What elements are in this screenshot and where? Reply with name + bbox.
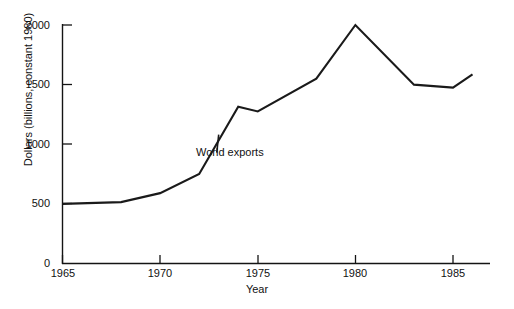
x-axis-ticks [63,255,454,264]
world-exports-line-chart: 2000 1500 1000 500 0 1965 1970 1975 1980… [0,0,514,309]
y-axis-title: Dollars (billions, constant 1980) [23,0,34,180]
world-exports-series-line [63,25,473,204]
x-tick-label-1980: 1980 [334,268,376,279]
x-tick-label-1985: 1985 [432,268,474,279]
x-tick-label-1965: 1965 [42,268,84,279]
y-axis-ticks [63,25,73,204]
series-annotation-label: World exports [196,147,264,158]
y-tick-label-500: 500 [6,198,50,209]
x-tick-label-1975: 1975 [237,268,279,279]
x-tick-label-1970: 1970 [139,268,181,279]
x-axis-title: Year [0,284,514,295]
